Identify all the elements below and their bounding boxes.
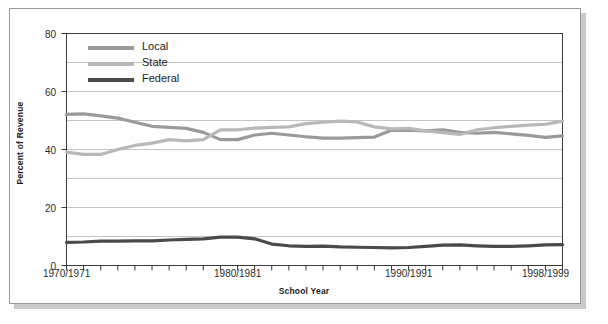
legend-item-state: State	[70, 56, 188, 72]
legend-swatch-state	[88, 62, 134, 66]
x-tick-label-1970: 1970/1971	[43, 268, 90, 279]
figure-container: 020406080 1970/1971 1980/1981 1990/1991 …	[0, 0, 608, 324]
legend-label-local: Local	[142, 40, 168, 52]
data-series-lines	[67, 114, 563, 248]
x-tick-label-1998: 1998/1999	[522, 268, 569, 279]
y-tick-label-20: 20	[16, 202, 56, 213]
legend-item-local: Local	[70, 40, 188, 56]
legend-item-federal: Federal	[70, 72, 188, 88]
plot-wrapper: 020406080 1970/1971 1980/1981 1990/1991 …	[0, 0, 608, 324]
legend-swatch-federal	[88, 78, 134, 82]
y-tick-label-80: 80	[16, 28, 56, 39]
legend-label-state: State	[142, 56, 168, 68]
x-tick-label-1990: 1990/1991	[385, 268, 432, 279]
legend-swatch-local	[88, 46, 134, 50]
chart-legend: Local State Federal	[70, 40, 188, 90]
y-axis-title: Percent of Revenue	[15, 95, 25, 191]
x-tick-label-1980: 1980/1981	[214, 268, 261, 279]
series-line-federal	[67, 237, 563, 248]
x-axis-title: School Year	[0, 286, 608, 296]
series-line-local	[67, 114, 563, 140]
legend-label-federal: Federal	[142, 72, 179, 84]
